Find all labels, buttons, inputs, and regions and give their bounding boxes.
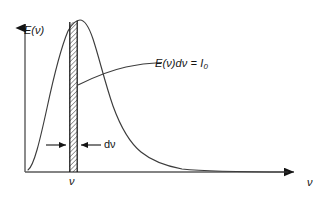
hatched-dnu-strip [70, 22, 78, 172]
area-label-leader-line [78, 63, 162, 86]
spectral-radiance-axis-label: E(ν) [24, 24, 44, 36]
frequency-axis-label: ν [307, 176, 313, 188]
area-equation-label: E(ν)dν = I0 [155, 57, 208, 71]
strip-tick-text: ν [69, 175, 75, 187]
strip-frequency-tick-label: ν [69, 175, 75, 187]
spectral-distribution-figure: E(ν) ν ν dν E(ν)dν = I0 [0, 0, 325, 197]
plot-canvas [0, 0, 325, 197]
y-axis-label-text: E(ν) [24, 24, 44, 36]
x-axis-label-text: ν [307, 176, 313, 188]
area-equation-expression: E(ν)dν = [155, 57, 200, 69]
spectral-distribution-curve [28, 20, 288, 172]
dnu-width-text: dν [104, 138, 116, 150]
dnu-width-label: dν [104, 138, 116, 150]
intensity-subscript: 0 [203, 62, 208, 71]
